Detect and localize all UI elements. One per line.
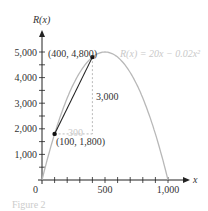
x-tick-label: 500	[98, 184, 113, 195]
rise-label: 3,000	[96, 91, 119, 102]
secant-line	[55, 57, 93, 134]
run-label: 300	[68, 127, 83, 138]
x-tick-label: 1,000	[157, 184, 180, 195]
point-400-label: (400, 4,800)	[48, 48, 97, 60]
y-tick-label: 1,000	[15, 149, 38, 160]
chart: 1,0002,0003,0004,0005,000 05001,000 R(x)…	[0, 0, 208, 211]
y-tick-label: 4,000	[15, 72, 38, 83]
x-tick-label: 0	[33, 184, 38, 195]
y-axis-label: R(x)	[32, 14, 51, 26]
equation-label: R(x) = 20x − 0.02x²	[119, 48, 201, 60]
y-tick-label: 2,000	[15, 123, 38, 134]
y-axis-arrow-icon	[39, 30, 45, 37]
y-tick-label: 3,000	[15, 98, 38, 109]
y-tick-label: 5,000	[15, 47, 38, 58]
x-axis-arrow-icon	[183, 177, 190, 183]
y-ticks: 1,0002,0003,0004,0005,000	[15, 47, 46, 168]
figure-caption: Figure 2	[12, 199, 46, 210]
x-axis-label: x	[192, 174, 198, 185]
revenue-curve	[42, 52, 168, 180]
